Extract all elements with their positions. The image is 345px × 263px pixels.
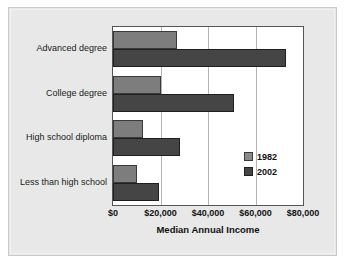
- legend-item-2002: 2002: [244, 165, 292, 178]
- bar-1982-2: [113, 120, 143, 138]
- legend-item-1982: 1982: [244, 150, 292, 163]
- legend-label-1982: 1982: [257, 152, 277, 162]
- bar-1982-0: [113, 31, 177, 49]
- legend-label-2002: 2002: [257, 167, 277, 177]
- x-axis-title: Median Annual Income: [112, 224, 304, 235]
- bar-2002-3: [113, 183, 159, 201]
- legend-swatch-1982: [244, 152, 253, 161]
- category-label-0: Advanced degree: [10, 43, 107, 53]
- x-tick-label-1: $20,000: [144, 208, 177, 218]
- x-tick-label-4: $80,000: [287, 208, 320, 218]
- x-tick-label-0: $0: [108, 208, 118, 218]
- category-label-3: Less than high school: [10, 177, 107, 187]
- chart-figure: Advanced degreeCollege degreeHigh school…: [0, 0, 345, 263]
- bar-2002-0: [113, 49, 286, 67]
- bar-1982-3: [113, 165, 137, 183]
- bar-2002-1: [113, 94, 234, 112]
- x-tick-label-2: $40,000: [192, 208, 225, 218]
- category-axis-labels: Advanced degreeCollege degreeHigh school…: [10, 26, 109, 206]
- category-label-2: High school diploma: [10, 132, 107, 142]
- chart-legend: 19822002: [244, 150, 292, 180]
- bar-2002-2: [113, 138, 180, 156]
- bar-1982-1: [113, 76, 161, 94]
- x-tick-label-3: $60,000: [239, 208, 272, 218]
- category-label-1: College degree: [10, 88, 107, 98]
- x-axis-tick-labels: $0$20,000$40,000$60,000$80,000: [112, 208, 304, 222]
- legend-swatch-2002: [244, 167, 253, 176]
